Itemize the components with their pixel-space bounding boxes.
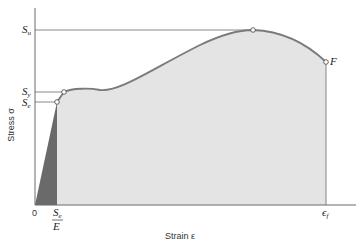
label-se-over-e-den: E [52, 220, 60, 232]
area-under-curve [57, 30, 326, 205]
label-se-over-e-num: Se [53, 206, 62, 220]
origin-label: 0 [32, 208, 37, 218]
label-epsilon-f: ϵf [322, 206, 329, 220]
point-f [324, 60, 329, 65]
label-f: F [329, 55, 337, 67]
point-su [251, 28, 256, 33]
point-se [55, 100, 60, 105]
x-axis-title: Strain ε [165, 231, 195, 241]
label-su: Su [22, 23, 32, 37]
stress-strain-diagram: Su Sy Se F Stress σ 0 Se E ϵf Strain ε [0, 0, 364, 248]
y-axis-title: Stress σ [6, 108, 16, 142]
elastic-region [35, 102, 57, 205]
point-sy [62, 90, 67, 95]
